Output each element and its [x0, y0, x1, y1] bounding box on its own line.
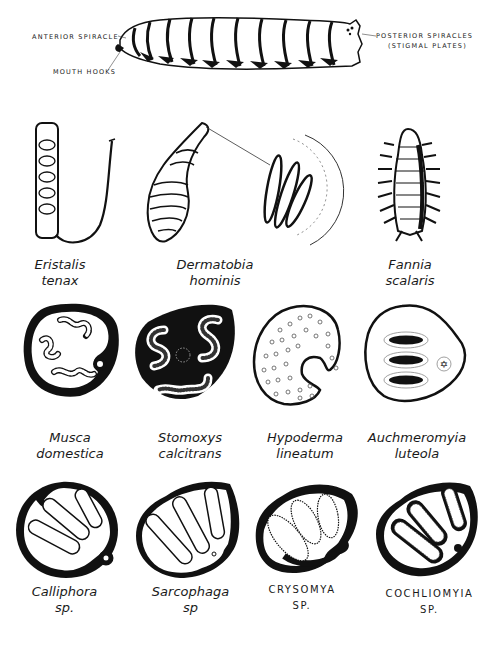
stigmal-plates-label: (STIGMAL PLATES) — [388, 42, 467, 50]
species-label: Sarcophaga sp — [138, 584, 243, 616]
specimen-auchmeromyia-luteola: ✡ Auchmeromyia luteola — [362, 300, 487, 470]
species-label: Calliphora sp. — [12, 584, 117, 616]
stomoxys-spiracle-illustration — [128, 300, 243, 400]
specimen-cochliomyia-sp: COCHLIOMYIA SP. — [372, 478, 487, 648]
posterior-spiracles-label: POSTERIOR SPIRACLES — [376, 32, 473, 40]
auchmeromyia-spiracle-illustration: ✡ — [362, 300, 482, 410]
cochliomyia-spiracle-illustration — [372, 478, 487, 578]
species-label: Stomoxys calcitrans — [140, 430, 240, 462]
specimen-stomoxys-calcitrans: Stomoxys calcitrans — [128, 300, 243, 470]
specimen-musca-domestica: Musca domestica — [20, 300, 130, 470]
eristalis-rat-tailed-larva-illustration — [20, 115, 130, 255]
specimen-crysomya-sp: CRYSOMYA SP. — [252, 478, 367, 648]
hypoderma-spiracle-illustration — [250, 300, 360, 410]
dermatobia-larva-illustration — [140, 115, 350, 255]
musca-spiracle-illustration — [20, 300, 130, 400]
specimen-calliphora-sp: Calliphora sp. — [12, 478, 127, 648]
species-label: Musca domestica — [20, 430, 120, 462]
anterior-spiracle-label: ANTERIOR SPIRACLE — [32, 33, 119, 41]
species-label: Auchmeromyia luteola — [362, 430, 472, 462]
species-label: Hypoderma lineatum — [255, 430, 355, 462]
species-label: CRYSOMYA SP. — [252, 582, 352, 614]
species-label: Fannia scalaris — [370, 257, 450, 289]
calliphora-spiracle-illustration — [12, 478, 127, 578]
specimen-dermatobia-hominis: Dermatobia hominis — [140, 115, 350, 295]
specimen-fannia-scalaris: Fannia scalaris — [370, 125, 470, 295]
species-label: Dermatobia hominis — [170, 257, 260, 289]
specimen-sarcophaga-sp: Sarcophaga sp — [132, 478, 247, 648]
specimen-hypoderma-lineatum: Hypoderma lineatum — [250, 300, 360, 470]
species-label: Eristalis tenax — [20, 257, 100, 289]
fannia-larva-illustration — [370, 125, 470, 245]
larva-diagram: ANTERIOR SPIRACLE MOUTH HOOKS POSTERIOR … — [0, 0, 491, 90]
species-label: COCHLIOMYIA SP. — [372, 586, 487, 618]
star-icon: ✡ — [440, 359, 448, 370]
mouth-hooks-label: MOUTH HOOKS — [53, 68, 116, 76]
sarcophaga-spiracle-illustration — [132, 478, 247, 578]
crysomya-spiracle-illustration — [252, 478, 367, 578]
specimen-eristalis-tenax: Eristalis tenax — [20, 115, 130, 295]
